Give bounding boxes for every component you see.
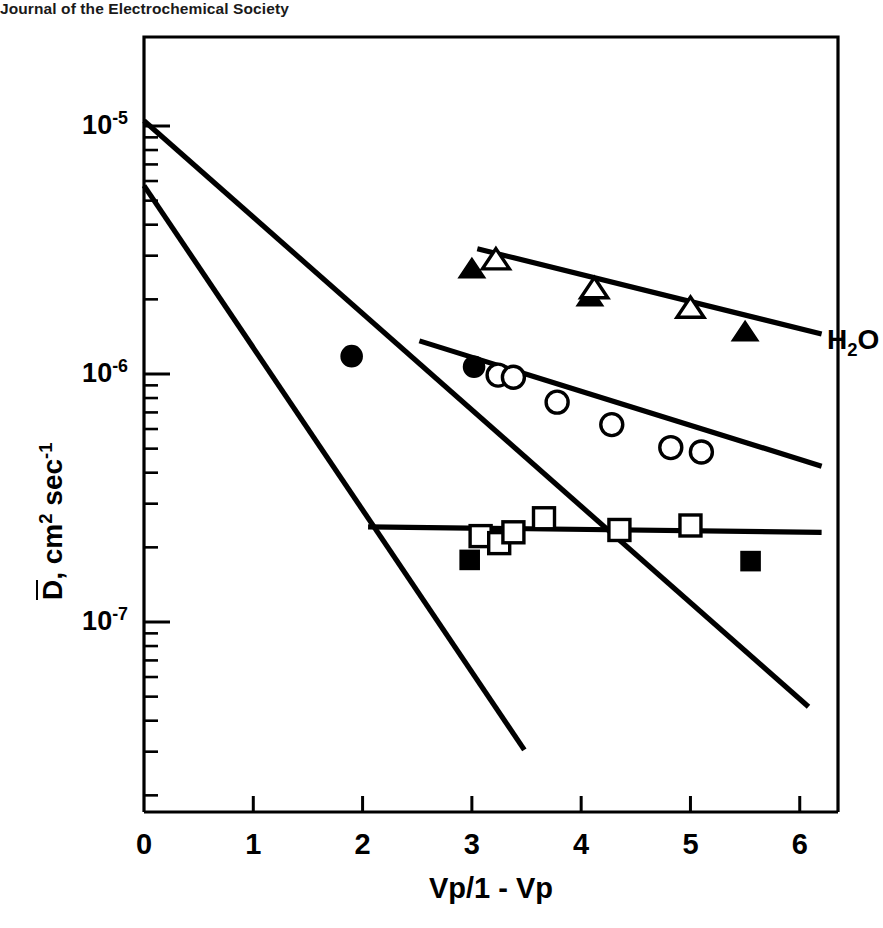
x-tick-label-3: 3 [447,830,497,859]
marker-filled-na--sorbed-1 [464,356,485,377]
y-tick-label-2: 10-7 [0,608,128,635]
marker-open-na--sorbed-1 [502,366,524,388]
x-axis-title: Vp/1 - Vp [84,874,883,903]
series-data-markers [341,249,760,571]
marker-open-na--sorbed-5 [690,441,712,463]
x-tick-label-1: 1 [228,830,278,859]
x-tick-label-4: 4 [556,830,606,859]
y-axis-title: D, cm2 sec-1 [36,443,67,600]
x-tick-label-2: 2 [338,830,388,859]
marker-filled-na--sorbed-0 [341,346,362,367]
fit-line-h2o [477,249,821,334]
marker-open-na--sorbed-2 [546,391,568,413]
marker-open-na--sorbed-3 [601,414,623,436]
series-fit-lines [144,121,822,750]
x-tick-label-0: 0 [119,830,169,859]
fit-line-cs--sorbed [368,527,822,532]
y-tick-label-1: 10-6 [0,360,128,387]
series-label-h2o: H2O [827,326,879,354]
marker-filled-h2o-0 [459,258,485,278]
marker-open-cs--sorbed-3 [534,508,555,529]
marker-filled-h2o-2 [732,321,758,341]
marker-open-na--sorbed-4 [660,437,682,459]
marker-open-cs--sorbed-2 [503,522,524,543]
marker-open-cs--sorbed-5 [680,515,701,536]
x-tick-label-5: 5 [665,830,715,859]
fit-line-cs--theory [144,121,808,707]
axis-ticks [144,126,800,812]
marker-filled-cs--sorbed-0 [460,550,479,569]
x-tick-label-6: 6 [775,830,825,859]
source-credit: Journal of the Electrochemical Society [0,0,289,18]
marker-open-cs--sorbed-4 [609,519,630,540]
marker-filled-cs--sorbed-1 [741,552,760,571]
y-tick-label-0: 10-5 [0,112,128,139]
